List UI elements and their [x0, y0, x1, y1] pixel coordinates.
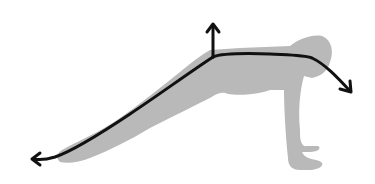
pose-illustration	[0, 0, 375, 184]
